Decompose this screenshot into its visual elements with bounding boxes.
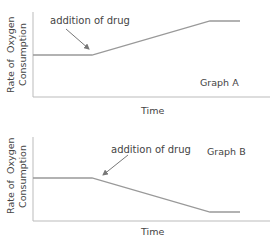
graph-b: addition of drug Graph B Time Rate of Ox… — [5, 137, 270, 237]
figure: addition of drug Graph A Time Rate of Ox… — [0, 0, 271, 238]
graph-b-y-label-1: Rate of Oxygen — [5, 137, 16, 214]
graph-b-line — [33, 178, 240, 212]
graph-a-annotation: addition of drug — [50, 15, 130, 26]
graph-b-arrow — [103, 155, 128, 175]
graph-b-title: Graph B — [207, 146, 246, 157]
graph-a-title: Graph A — [200, 77, 239, 88]
graph-b-x-label: Time — [140, 226, 164, 237]
graph-a-line — [33, 21, 240, 55]
graph-a-x-label: Time — [140, 105, 164, 116]
graph-a-y-label-1: Rate of Oxygen — [5, 16, 16, 93]
graph-b-annotation: addition of drug — [111, 144, 191, 155]
graph-a-arrow — [66, 29, 89, 49]
graph-b-y-label-2: Consumption — [17, 145, 28, 208]
graph-a-y-label-2: Consumption — [17, 23, 28, 86]
graph-a: addition of drug Graph A Time Rate of Ox… — [5, 12, 270, 116]
